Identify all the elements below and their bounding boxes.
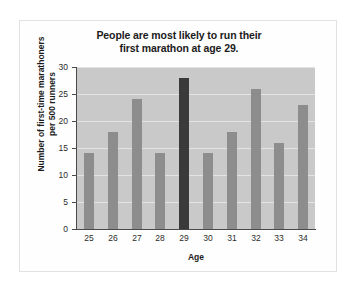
- y-axis-tick-mark: [72, 121, 76, 122]
- chart-title-line-1: People are most likely to run their: [50, 29, 308, 42]
- y-axis-tick-mark: [72, 94, 76, 95]
- bar-age-33: [274, 143, 284, 229]
- bar-age-29: [179, 78, 189, 229]
- x-axis-tick-label: 31: [220, 233, 244, 243]
- bar-age-31: [227, 132, 237, 229]
- plot-area: [77, 67, 315, 229]
- bar-age-34: [298, 105, 308, 229]
- x-axis-tick-label: 28: [148, 233, 172, 243]
- bar-age-28: [155, 153, 165, 229]
- y-axis-tick-label: 0: [44, 225, 68, 234]
- chart-title: People are most likely to run their firs…: [50, 29, 308, 55]
- y-axis-title-line-1: Number of first-time marathoners: [36, 29, 47, 179]
- x-axis-tick-label: 30: [196, 233, 220, 243]
- y-axis-tick-label: 10: [44, 171, 68, 180]
- bar-age-32: [251, 89, 261, 229]
- x-axis-tick-label: 26: [101, 233, 125, 243]
- bar-age-27: [132, 99, 142, 229]
- bar-age-30: [203, 153, 213, 229]
- gridline: [77, 94, 315, 95]
- x-axis-tick-label: 27: [125, 233, 149, 243]
- x-axis-line: [76, 229, 316, 230]
- x-axis-title: Age: [77, 252, 315, 262]
- y-axis-tick-label: 30: [44, 63, 68, 72]
- chart-title-line-2: first marathon at age 29.: [50, 42, 308, 55]
- y-axis-tick-mark: [72, 67, 76, 68]
- y-axis-tick-label: 25: [44, 90, 68, 99]
- y-axis-tick-label: 5: [44, 198, 68, 207]
- y-axis-title: Number of first-time marathoners per 500…: [36, 29, 58, 179]
- y-axis-tick-mark: [72, 202, 76, 203]
- bar-age-26: [108, 132, 118, 229]
- gridline: [77, 121, 315, 122]
- y-axis-tick-mark: [72, 148, 76, 149]
- bar-age-25: [84, 153, 94, 229]
- x-axis-tick-label: 29: [172, 233, 196, 243]
- y-axis-tick-mark: [72, 175, 76, 176]
- x-axis-tick-label: 25: [77, 233, 101, 243]
- x-axis-tick-label: 34: [291, 233, 315, 243]
- y-axis-tick-label: 15: [44, 144, 68, 153]
- x-axis-tick-label: 33: [267, 233, 291, 243]
- y-axis-tick-label: 20: [44, 117, 68, 126]
- y-axis-title-line-2: per 500 runners: [47, 29, 58, 179]
- chart-card: People are most likely to run their firs…: [19, 20, 337, 272]
- y-axis-tick-mark: [72, 229, 76, 230]
- y-axis-line: [76, 67, 77, 230]
- gridline: [77, 67, 315, 68]
- x-axis-tick-label: 32: [244, 233, 268, 243]
